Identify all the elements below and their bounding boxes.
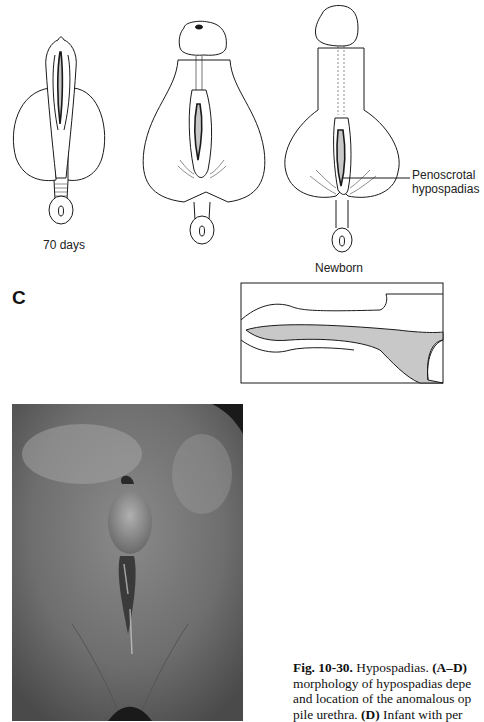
photo-phallus: [108, 490, 152, 554]
drawing-70-days: [0, 0, 160, 240]
caption-line-4: pile urethra. (D) Infant with per: [293, 707, 484, 722]
anus-ring: [49, 196, 73, 224]
photo-infant-hypospadias: [12, 404, 243, 721]
figure-caption: Fig. 10-30. Hypospadias. (A–D) morpholog…: [293, 660, 484, 722]
label-70-days: 70 days: [43, 238, 85, 252]
caption-line-1: Fig. 10-30. Hypospadias. (A–D): [293, 660, 484, 676]
anus-ring-newborn: [332, 228, 352, 252]
panel-letter-c: C: [12, 287, 26, 309]
caption-line-2: morphology of hypospadias depe: [293, 676, 484, 692]
panel-c-sagittal-diagram: [230, 280, 470, 390]
annotation-hypospadias: hypospadias: [412, 182, 479, 196]
caption-line-3: and location of the anomalous op: [293, 691, 484, 707]
label-newborn: Newborn: [315, 261, 363, 275]
glans-newborn: [315, 5, 358, 46]
annotation-penoscrotal: Penoscrotal: [412, 168, 475, 182]
drawing-newborn: [280, 0, 410, 250]
drawing-intermediate: [140, 20, 280, 250]
urethra-shaded: [246, 325, 443, 383]
penis-outline: [241, 294, 443, 320]
urethral-groove: [58, 52, 63, 124]
anus-ring-intermediate: [190, 216, 214, 244]
